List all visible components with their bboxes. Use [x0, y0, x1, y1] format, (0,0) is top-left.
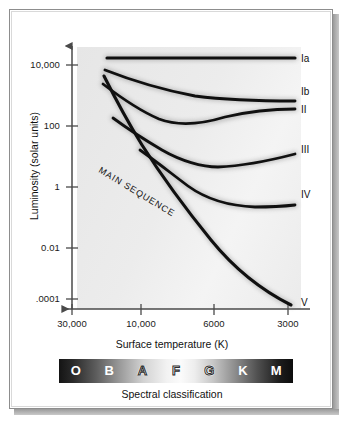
class-label-IV: IV	[301, 189, 310, 200]
plot-wrap: 10,000 100 1 0.01 .0001 30,000 10,000 60…	[10, 10, 334, 410]
x-axis-title: Surface temperature (K)	[10, 338, 334, 350]
x-tick-label-10000: 10,000	[111, 318, 171, 329]
spectral-letter-K: K	[226, 359, 259, 383]
spectral-classification-caption: Spectral classification	[10, 388, 334, 400]
class-label-II: II	[301, 104, 307, 115]
spectral-classification-bar: O B A F G K M	[59, 359, 293, 383]
class-label-III: III	[301, 144, 309, 155]
spectral-letter-O: O	[59, 359, 92, 383]
spectral-letter-G: G	[193, 359, 226, 383]
curve-II	[103, 84, 295, 124]
curve-Ib	[105, 70, 295, 101]
spectral-letter-F: F	[159, 359, 192, 383]
spectral-letter-M: M	[260, 359, 293, 383]
class-label-V: V	[301, 297, 308, 308]
class-label-Ia: Ia	[301, 53, 309, 64]
y-tick-label-0.0001: .0001	[8, 293, 60, 304]
y-axis-title: Luminosity (solar units)	[28, 86, 40, 246]
axis-lines	[62, 46, 310, 309]
y-tick-label-10000: 10,000	[8, 59, 60, 70]
x-tick-label-30000: 30,000	[42, 318, 102, 329]
x-tick-label-6000: 6000	[187, 318, 241, 329]
x-tick-label-3000: 3000	[261, 318, 315, 329]
luminosity-class-curves	[103, 58, 295, 305]
spectral-letter-A: A	[126, 359, 159, 383]
class-label-Ib: Ib	[301, 86, 309, 97]
spectral-letter-B: B	[92, 359, 125, 383]
hr-diagram-figure-card: 10,000 100 1 0.01 .0001 30,000 10,000 60…	[9, 9, 333, 409]
